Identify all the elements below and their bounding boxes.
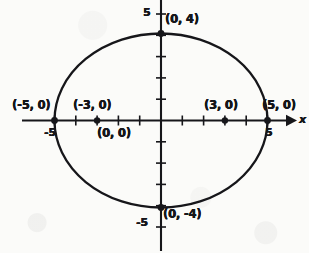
label-right-focus: (3, 0) (204, 98, 238, 112)
point-right-vertex (264, 117, 271, 124)
label-origin: (0, 0) (97, 126, 131, 140)
point-left-vertex (51, 117, 58, 124)
x-axis-label: x (299, 113, 306, 126)
label-right-vertex: (5, 0) (262, 98, 296, 112)
tick-label-y-bottom: -5 (136, 216, 148, 229)
ellipse-graph-figure: (-5, 0) (-3, 0) (0, 0) (3, 0) (5, 0) (0,… (0, 0, 309, 253)
tick-label-x-right: 5 (265, 126, 272, 139)
point-top-vertex (158, 30, 165, 37)
tick-label-x-left: -5 (44, 126, 56, 139)
tick-label-y-top: 5 (143, 6, 150, 19)
point-right-focus (222, 117, 228, 123)
point-left-focus (94, 117, 100, 123)
label-top-vertex: (0, 4) (165, 12, 199, 26)
label-left-vertex: (-5, 0) (12, 98, 50, 112)
label-bottom-vertex: (0, -4) (163, 207, 201, 221)
x-axis-arrowhead (286, 115, 297, 126)
label-left-focus: (-3, 0) (73, 98, 111, 112)
